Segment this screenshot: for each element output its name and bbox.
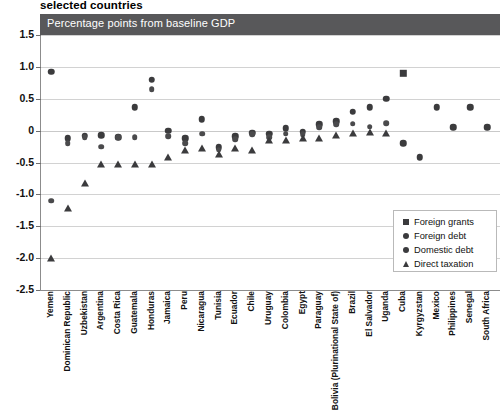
chart-legend: Foreign grantsForeign debtDomestic debtD… — [393, 210, 497, 272]
y-axis-tick — [36, 35, 41, 36]
chart-subtitle: Percentage points from baseline GDP — [47, 17, 235, 29]
data-point — [132, 104, 139, 111]
y-axis-tick-label: 0.5 — [4, 92, 34, 104]
data-point — [450, 124, 457, 131]
data-point — [382, 129, 390, 136]
x-axis-tick-label: Costa Rica — [113, 291, 121, 334]
x-axis-labels: YemenDominican RepublicUzbekistanArgenti… — [0, 291, 500, 405]
data-point — [484, 124, 491, 131]
legend-item[interactable]: Domestic debt — [400, 243, 491, 257]
y-axis-tick — [36, 131, 41, 132]
x-axis-tick-label: Peru — [180, 291, 188, 310]
gridline — [41, 194, 500, 195]
data-point — [249, 132, 255, 138]
y-axis-tick — [36, 67, 41, 68]
data-point — [366, 128, 374, 135]
data-point — [97, 161, 105, 168]
legend-item-label: Foreign grants — [414, 217, 474, 227]
x-axis-tick-label: El Salvador — [365, 291, 373, 337]
chart-banner: Percentage points from baseline GDP — [40, 14, 500, 35]
data-point — [48, 69, 55, 76]
data-point — [231, 144, 239, 151]
x-axis-tick-label: Uganda — [381, 291, 389, 322]
data-point — [114, 160, 122, 167]
x-axis-tick-label: Kyrgyzstan — [415, 291, 423, 336]
data-point — [164, 154, 172, 161]
data-point — [384, 120, 390, 126]
data-point — [248, 146, 256, 153]
y-axis-tick — [36, 99, 41, 100]
x-axis-tick-label: Guatemala — [130, 291, 138, 334]
x-axis-tick-label: Senegal — [465, 291, 473, 323]
x-axis-tick-label: Brazil — [348, 291, 356, 314]
y-axis-tick-label: 0 — [4, 124, 34, 136]
page-title: selected countries — [40, 0, 143, 11]
data-point — [64, 205, 72, 212]
legend-item-label: Direct taxation — [414, 259, 473, 269]
data-point — [317, 125, 323, 131]
data-point — [98, 132, 105, 139]
data-point — [65, 141, 71, 147]
data-point — [48, 198, 54, 204]
y-axis-tick-label: -1.5 — [4, 219, 34, 231]
data-point — [350, 108, 357, 115]
data-point — [199, 116, 206, 123]
data-point — [282, 136, 290, 143]
x-axis-tick-label: Yemen — [46, 291, 54, 318]
data-point — [131, 160, 139, 167]
data-point — [383, 96, 390, 103]
x-axis-tick-label: Bolivia (Plurinational State of) — [331, 291, 339, 410]
y-axis-tick-label: 1.5 — [4, 28, 34, 40]
x-axis-tick-label: Chile — [247, 291, 255, 311]
data-point — [366, 104, 373, 111]
data-point — [350, 121, 356, 127]
data-point — [99, 144, 105, 150]
data-point — [47, 255, 55, 262]
x-axis-tick-label: Dominican Republic — [63, 291, 71, 372]
x-axis-tick-label: Cuba — [398, 291, 406, 312]
x-axis-tick-label: Uzbekistan — [80, 291, 88, 335]
triangle-marker-icon — [400, 261, 411, 267]
x-axis-tick-label: Ecuador — [230, 291, 238, 325]
y-axis-tick-label: -0.5 — [4, 156, 34, 168]
legend-item[interactable]: Direct taxation — [400, 257, 491, 271]
data-point — [349, 130, 357, 137]
data-point — [215, 150, 223, 157]
y-axis-tick — [36, 163, 41, 164]
y-axis-tick-label: -1.0 — [4, 187, 34, 199]
x-axis-tick-label: Honduras — [147, 291, 155, 330]
y-axis-tick-label: 1.0 — [4, 60, 34, 72]
gridline — [41, 35, 500, 36]
data-point — [148, 76, 155, 83]
data-point — [400, 70, 406, 76]
data-point — [333, 121, 339, 127]
circle-marker-icon — [400, 233, 411, 239]
legend-item-label: Foreign debt — [414, 231, 466, 241]
data-point — [198, 144, 206, 151]
data-point — [149, 86, 155, 92]
legend-item-label: Domestic debt — [414, 245, 473, 255]
data-point — [400, 140, 407, 147]
y-axis-tick-label: -2.0 — [4, 251, 34, 263]
data-point — [433, 104, 440, 111]
legend-item[interactable]: Foreign debt — [400, 229, 491, 243]
x-axis-tick-label: Egypt — [298, 291, 306, 314]
x-axis-tick-label: Paraguay — [314, 291, 322, 329]
gridline — [41, 99, 500, 100]
x-axis-tick-label: Uruguay — [264, 291, 272, 325]
y-axis-tick — [36, 258, 41, 259]
y-axis-tick — [36, 226, 41, 227]
gridline — [41, 67, 500, 68]
data-point — [233, 136, 239, 142]
x-axis-tick-label: Jamaica — [163, 291, 171, 324]
x-axis-tick-label: South Africa — [482, 291, 490, 340]
gridline — [41, 163, 500, 164]
legend-item[interactable]: Foreign grants — [400, 215, 491, 229]
data-point — [332, 132, 340, 139]
data-point — [132, 134, 138, 140]
data-point — [299, 135, 307, 142]
x-axis-tick-label: Colombia — [281, 291, 289, 329]
data-point — [181, 146, 189, 153]
x-axis-tick-label: Mexico — [432, 291, 440, 319]
